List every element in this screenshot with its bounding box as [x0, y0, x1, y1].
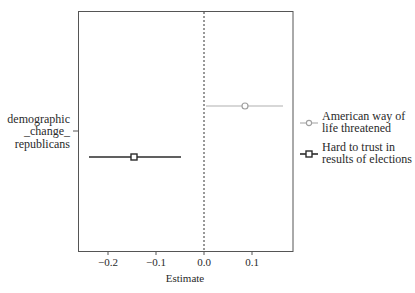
x-tick-label: −0.1 [146, 256, 166, 268]
coefficient-chart: −0.2 −0.1 0.0 0.1 Estimate demographic _… [0, 0, 415, 293]
legend-item-hard-to-trust: Hard to trust in results of elections [300, 140, 412, 166]
y-category-label: republicans [15, 137, 71, 151]
legend-label: results of elections [322, 152, 412, 166]
legend: American way of life threatened Hard to … [300, 109, 412, 166]
x-axis: −0.2 −0.1 0.0 0.1 Estimate [98, 252, 259, 285]
x-tick-label: −0.2 [98, 256, 118, 268]
point-estimate-circle [242, 103, 248, 109]
legend-item-american-way: American way of life threatened [300, 109, 405, 135]
point-estimate-square [131, 154, 137, 160]
plot-frame [79, 12, 294, 252]
legend-circle-icon [306, 120, 311, 125]
x-tick-label: 0.1 [245, 256, 259, 268]
y-category-label: _change_ [23, 124, 71, 138]
y-axis: demographic _change_ republicans [7, 112, 78, 151]
x-tick-label: 0.0 [197, 256, 211, 268]
x-axis-title: Estimate [166, 272, 205, 284]
legend-label: life threatened [322, 121, 391, 135]
legend-square-icon [306, 151, 312, 157]
